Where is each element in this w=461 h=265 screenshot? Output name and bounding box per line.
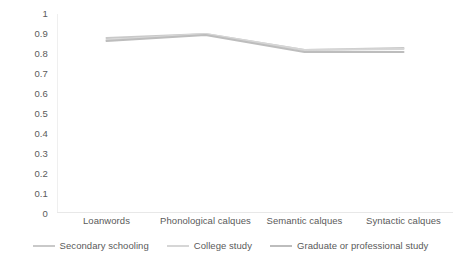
legend-line-swatch-icon	[33, 245, 55, 247]
y-axis-tick-label: 1	[8, 9, 48, 19]
y-axis-tick-label: 0.1	[8, 189, 48, 199]
y-axis-tick-label: 0.7	[8, 69, 48, 79]
x-axis: LoanwordsPhonological calquesSemantic ca…	[57, 215, 453, 231]
y-axis-tick-label: 0.6	[8, 89, 48, 99]
chart-legend: Secondary schoolingCollege studyGraduate…	[0, 238, 461, 254]
x-axis-tick-label: Syntactic calques	[366, 215, 441, 227]
y-axis-tick-label: 0	[8, 209, 48, 219]
legend-item[interactable]: Secondary schooling	[33, 240, 149, 252]
legend-item[interactable]: Graduate or professional study	[270, 240, 428, 252]
x-axis-tick-label: Semantic calques	[267, 215, 343, 227]
legend-item[interactable]: College study	[167, 240, 252, 252]
legend-label: Secondary schooling	[60, 240, 149, 252]
y-axis-tick-label: 0.9	[8, 29, 48, 39]
y-axis-tick-label: 0.2	[8, 169, 48, 179]
legend-line-swatch-icon	[270, 245, 292, 247]
legend-label: Graduate or professional study	[297, 240, 428, 252]
x-axis-tick-label: Loanwords	[83, 215, 130, 227]
y-axis-tick-label: 0.8	[8, 49, 48, 59]
y-axis-tick-label: 0.4	[8, 129, 48, 139]
y-axis-tick-label: 0.3	[8, 149, 48, 159]
legend-line-swatch-icon	[167, 245, 189, 247]
series-lines	[57, 14, 453, 214]
series-line	[107, 34, 404, 50]
y-axis-tick-label: 0.5	[8, 109, 48, 119]
x-axis-tick-label: Phonological calques	[160, 215, 251, 227]
y-axis: 10.90.80.70.60.50.40.30.20.10	[8, 0, 48, 265]
plot-area	[57, 14, 453, 214]
legend-label: College study	[194, 240, 252, 252]
line-chart: 10.90.80.70.60.50.40.30.20.10 LoanwordsP…	[0, 0, 461, 265]
